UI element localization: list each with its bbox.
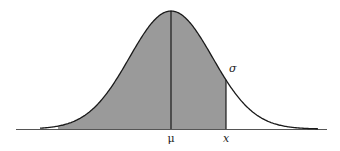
sigma-label: σ <box>229 62 237 75</box>
mean-label: μ <box>167 132 174 145</box>
normal-distribution-diagram: μ x σ <box>0 0 340 151</box>
x-value-label: x <box>223 132 230 145</box>
shaded-area <box>58 11 226 129</box>
